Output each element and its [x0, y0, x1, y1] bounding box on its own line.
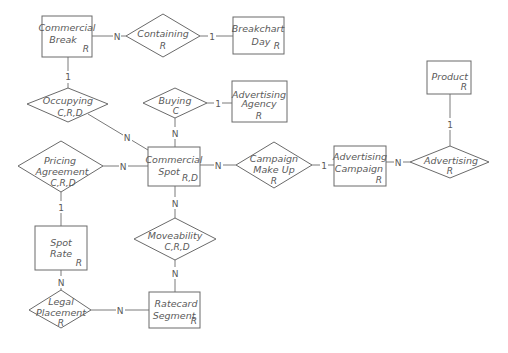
entity-spot-rate[interactable]: Spot Rate R: [35, 226, 87, 270]
relationship-campaign-make-up[interactable]: Campaign Make Up R: [236, 142, 312, 188]
entity-ops: R: [461, 82, 467, 92]
cardinality-label: N: [395, 158, 402, 168]
cardinality-label: 1: [321, 161, 327, 171]
edge-occupying-commercial-spot: [88, 114, 148, 150]
relationship-label: Make Up: [253, 164, 294, 175]
relationship-ops: C,R,D: [164, 242, 189, 252]
entity-label: Day: [252, 36, 271, 47]
entity-label: Spot: [50, 237, 73, 248]
entity-commercial-break[interactable]: Commercial Break R: [38, 16, 95, 57]
relationship-label: Occupying: [43, 95, 93, 106]
entity-label: Rate: [50, 248, 72, 259]
entity-ops: R: [191, 316, 197, 326]
relationship-pricing-agreement[interactable]: Pricing Agreement C,R,D: [18, 141, 103, 192]
entity-commercial-spot[interactable]: Commercial Spot R,D: [145, 147, 202, 186]
relationship-ops: R: [447, 166, 453, 176]
entity-ops: R: [274, 41, 280, 51]
entity-label: Commercial: [145, 154, 202, 165]
relationship-label: Buying: [159, 95, 192, 106]
entity-advertising-campaign[interactable]: Advertising Campaign R: [332, 146, 387, 186]
relationship-containing[interactable]: Containing R: [126, 14, 200, 57]
relationship-occupying[interactable]: Occupying C,R,D: [27, 88, 108, 122]
relationship-buying[interactable]: Buying C: [143, 88, 207, 118]
relationship-label: Moveability: [148, 230, 203, 241]
relationship-moveability[interactable]: Moveability C,R,D: [134, 218, 216, 260]
relationship-ops: C,R,D: [50, 178, 75, 188]
relationship-ops: R: [58, 318, 64, 328]
relationship-label: Containing: [137, 28, 188, 39]
relationship-ops: R: [160, 41, 166, 51]
entity-label: Spot: [158, 166, 181, 177]
cardinality-label: N: [172, 269, 179, 279]
cardinality-label: N: [124, 133, 131, 143]
entity-label: Breakchart: [232, 23, 286, 34]
cardinality-label: N: [120, 162, 127, 172]
relationship-ops: C,R,D: [57, 108, 82, 118]
entity-label: Campaign: [335, 163, 383, 174]
relationship-advertising[interactable]: Advertising R: [410, 146, 489, 178]
relationship-label: Agreement: [35, 166, 90, 177]
entity-ops: R: [83, 44, 89, 54]
entity-advertising-agency[interactable]: Advertising Agency R: [231, 81, 287, 122]
cardinality-label: N: [215, 161, 222, 171]
entity-product[interactable]: Product R: [427, 61, 471, 94]
relationship-label: Legal: [48, 296, 74, 307]
entity-label: Ratecard: [155, 298, 199, 309]
relationship-legal-placement[interactable]: Legal Placement R: [29, 290, 91, 328]
entity-ratecard-segment[interactable]: Ratecard Segment R: [149, 292, 200, 328]
cardinality-label: 1: [447, 120, 453, 130]
relationship-ops: R: [271, 176, 277, 186]
entity-ops: R: [76, 258, 82, 268]
entity-label: Break: [49, 34, 77, 45]
cardinality-label: 1: [58, 203, 64, 213]
entity-label: Advertising: [332, 151, 387, 162]
entity-label: Agency: [240, 98, 277, 109]
cardinality-label: 1: [65, 72, 71, 82]
entity-ops: R: [256, 111, 262, 121]
cardinality-label: 1: [209, 32, 215, 42]
er-diagram: N 1 1 N 1 N N N 1 N 1 1 N N N N: [0, 0, 508, 353]
entity-label: Product: [432, 71, 470, 82]
cardinality-label: N: [114, 32, 121, 42]
cardinality-label: N: [58, 278, 65, 288]
cardinality-label: 1: [215, 99, 221, 109]
cardinality-label: N: [117, 306, 124, 316]
entity-breakchart-day[interactable]: Breakchart Day R: [232, 17, 286, 54]
relationship-label: Pricing: [44, 155, 76, 166]
cardinality-label: N: [172, 129, 179, 139]
entity-label: Commercial: [38, 22, 95, 33]
entity-ops: R,D: [182, 173, 198, 183]
relationship-label: Placement: [36, 307, 87, 318]
relationship-label: Campaign: [250, 153, 298, 164]
relationship-ops: C: [173, 106, 180, 116]
cardinality-label: N: [172, 199, 179, 209]
relationship-label: Advertising: [423, 155, 478, 166]
entity-ops: R: [376, 175, 382, 185]
